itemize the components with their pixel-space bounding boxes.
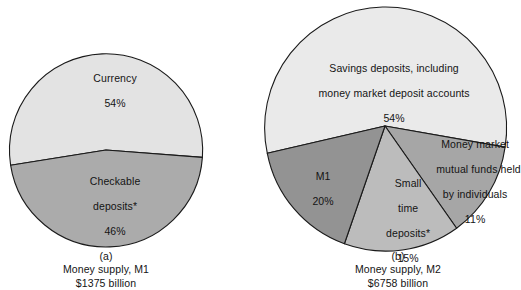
- caption-b-line1: Money supply, M2: [310, 263, 486, 276]
- caption-a: (a) Money supply, M1 $1375 billion: [18, 250, 194, 290]
- caption-a-letter: (a): [18, 250, 194, 263]
- pie-slice-currency[interactable]: [9, 54, 202, 165]
- caption-a-line1: Money supply, M1: [18, 263, 194, 276]
- caption-b-line2: $6758 billion: [310, 277, 486, 290]
- caption-b: (b) Money supply, M2 $6758 billion: [310, 250, 486, 290]
- pie-a-svg: [0, 0, 256, 290]
- pie-chart-b: Savings deposits, including money market…: [256, 0, 513, 290]
- pie-chart-a: Currency 54% Checkable deposits* 46% (a)…: [0, 0, 256, 290]
- caption-b-letter: (b): [310, 250, 486, 263]
- pie-slice-checkable-deposits[interactable]: [11, 150, 203, 247]
- pie-b-svg: [256, 0, 513, 290]
- caption-a-line2: $1375 billion: [18, 277, 194, 290]
